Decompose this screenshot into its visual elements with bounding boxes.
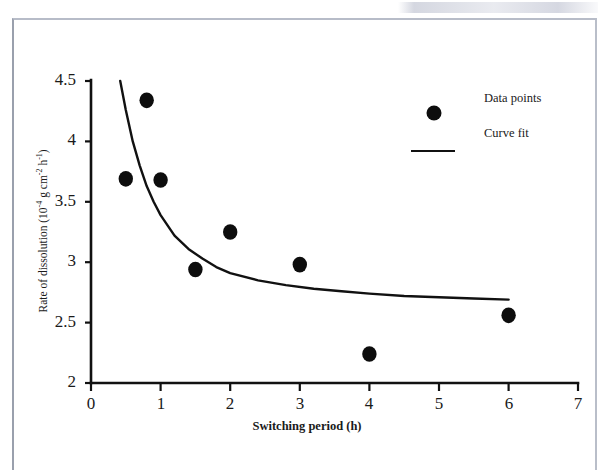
data-point-marker: [188, 262, 202, 278]
legend-label-curve-fit: Curve fit: [484, 126, 529, 141]
x-tick-label-7: 7: [558, 394, 598, 414]
data-point-marker: [139, 93, 153, 109]
data-point-marker: [153, 172, 167, 188]
y-axis-title-exp3: -1: [35, 153, 44, 160]
y-axis-title-mid2: h: [37, 160, 49, 169]
legend-data-points-marker-icon: [427, 106, 442, 121]
data-point-marker: [362, 346, 376, 362]
x-tick-label-4: 4: [349, 394, 389, 414]
y-axis-title-mid1: g cm: [37, 175, 49, 201]
legend-label-data-points: Data points: [484, 91, 541, 106]
x-axis-title: Switching period (h): [197, 419, 417, 434]
x-tick-label-1: 1: [141, 394, 181, 414]
y-tick-label-4p5: 4.5: [28, 70, 76, 90]
y-axis-title-suffix: ): [37, 149, 49, 153]
data-point-markers: [119, 93, 516, 362]
data-point-marker: [223, 224, 237, 240]
x-tick-label-3: 3: [280, 394, 320, 414]
y-tick-label-2: 2: [28, 372, 76, 392]
data-point-marker: [293, 257, 307, 273]
data-point-marker: [501, 308, 515, 324]
y-axis-title-exp1: -4: [35, 201, 44, 208]
x-tick-label-5: 5: [419, 394, 459, 414]
curve-fit-line: [120, 81, 508, 300]
y-axis-title-exp2: -2: [35, 168, 44, 175]
x-tick-label-6: 6: [489, 394, 529, 414]
y-axis-title: Rate of dissolution (10-4 g cm-2 h-1): [35, 126, 49, 336]
x-tick-label-0: 0: [71, 394, 111, 414]
x-tick-label-2: 2: [210, 394, 250, 414]
y-axis-title-prefix: Rate of dissolution (10: [37, 207, 49, 312]
data-point-marker: [119, 171, 133, 187]
